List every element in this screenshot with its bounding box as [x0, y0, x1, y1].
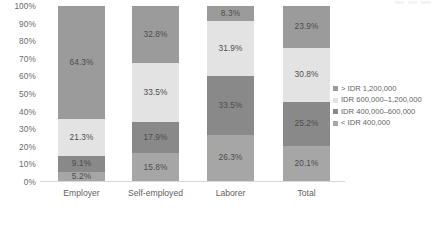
bar-self-employed[interactable]: 15.8%17.9%33.5%32.8% — [132, 6, 179, 181]
legend-swatch-icon — [333, 109, 338, 114]
segment-value-label: 26.3% — [218, 153, 242, 162]
bar-total[interactable]: 20.1%25.2%30.8%23.9% — [283, 6, 330, 181]
plot-area: 5.2%9.1%21.3%64.3%15.8%17.9%33.5%32.8%26… — [40, 6, 345, 182]
bar-segment[interactable]: 20.1% — [283, 146, 330, 181]
segment-value-label: 64.3% — [69, 58, 93, 67]
y-axis-tick: 90% — [19, 19, 36, 27]
segment-value-label: 30.8% — [294, 70, 318, 79]
legend-label: IDR 400,000–600,000 — [341, 108, 415, 116]
legend-swatch-icon — [333, 121, 338, 126]
segment-value-label: 9.1% — [72, 159, 91, 168]
bar-segment[interactable]: 30.8% — [283, 48, 330, 102]
bar-employer[interactable]: 5.2%9.1%21.3%64.3% — [58, 6, 105, 181]
bar-segment[interactable]: 64.3% — [58, 6, 105, 119]
bar-segment[interactable]: 5.2% — [58, 172, 105, 181]
legend-swatch-icon — [333, 98, 338, 103]
legend-label: < IDR 400,000 — [341, 119, 390, 127]
segment-value-label: 32.8% — [143, 30, 167, 39]
bar-segment[interactable]: 23.9% — [283, 6, 330, 48]
segment-value-label: 33.5% — [143, 88, 167, 97]
segment-value-label: 25.2% — [294, 119, 318, 128]
legend-label: IDR 600,000–1,200,000 — [341, 96, 422, 104]
segment-value-label: 20.1% — [294, 159, 318, 168]
y-axis-tick: 10% — [19, 160, 36, 168]
legend-item[interactable]: IDR 600,000–1,200,000 — [333, 95, 437, 106]
y-axis-tick: 50% — [19, 90, 36, 98]
legend-swatch-icon — [333, 86, 338, 91]
bar-segment[interactable]: 9.1% — [58, 156, 105, 172]
bar-segment[interactable]: 32.8% — [132, 6, 179, 63]
bar-segment[interactable]: 21.3% — [58, 119, 105, 156]
stacked-bar-chart: 100%90%80%70%60%50%40%30%20%10%0% 5.2%9.… — [0, 0, 437, 228]
y-axis-tick: 30% — [19, 125, 36, 133]
y-axis-tick: 100% — [14, 2, 36, 10]
bar-segment[interactable]: 33.5% — [132, 63, 179, 122]
y-axis-tick: 60% — [19, 72, 36, 80]
y-axis-tick: 80% — [19, 37, 36, 45]
y-axis-tick: 70% — [19, 55, 36, 63]
bar-segment[interactable]: 33.5% — [207, 76, 254, 135]
capture-artifact — [395, 1, 431, 4]
legend-item[interactable]: < IDR 400,000 — [333, 118, 437, 129]
bar-segment[interactable]: 17.9% — [132, 122, 179, 153]
y-axis-tick: 20% — [19, 143, 36, 151]
bar-segment[interactable]: 25.2% — [283, 102, 330, 146]
legend-label: > IDR 1,200,000 — [341, 85, 397, 93]
x-axis: EmployerSelf-employedLaborerTotal — [40, 188, 345, 208]
chart-legend: > IDR 1,200,000IDR 600,000–1,200,000IDR … — [333, 83, 437, 129]
y-axis: 100%90%80%70%60%50%40%30%20%10%0% — [0, 6, 40, 182]
bar-segment[interactable]: 26.3% — [207, 135, 254, 181]
legend-item[interactable]: IDR 400,000–600,000 — [333, 106, 437, 117]
segment-value-label: 8.3% — [221, 9, 240, 18]
segment-value-label: 15.8% — [143, 163, 167, 172]
legend-item[interactable]: > IDR 1,200,000 — [333, 83, 437, 94]
bar-laborer[interactable]: 26.3%33.5%31.9%8.3% — [207, 6, 254, 181]
segment-value-label: 33.5% — [218, 101, 242, 110]
y-axis-tick: 0% — [24, 178, 36, 186]
segment-value-label: 5.2% — [72, 172, 91, 181]
bar-segment[interactable]: 31.9% — [207, 21, 254, 77]
x-axis-line — [40, 181, 345, 182]
segment-value-label: 23.9% — [294, 22, 318, 31]
segment-value-label: 17.9% — [143, 133, 167, 142]
bar-segment[interactable]: 8.3% — [207, 6, 254, 21]
x-axis-label: Total — [262, 188, 352, 198]
y-axis-tick: 40% — [19, 107, 36, 115]
bar-segment[interactable]: 15.8% — [132, 153, 179, 181]
segment-value-label: 21.3% — [69, 133, 93, 142]
segment-value-label: 31.9% — [218, 44, 242, 53]
